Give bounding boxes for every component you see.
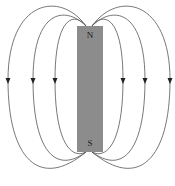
arrow-down-icon	[121, 78, 126, 84]
north-pole-label: N	[87, 30, 94, 40]
arrow-down-icon	[6, 78, 11, 84]
arrow-down-icon	[31, 78, 36, 84]
arrow-down-icon	[143, 78, 148, 84]
field-line-left-outer	[8, 6, 86, 168]
magnetic-field-diagram: N S	[0, 0, 175, 186]
bar-magnet	[77, 26, 103, 152]
arrow-down-icon	[53, 78, 58, 84]
south-pole-label: S	[87, 138, 92, 148]
field-lines-right	[92, 6, 170, 168]
field-lines-left	[8, 6, 86, 168]
arrow-down-icon	[168, 78, 173, 84]
field-line-right-outer	[92, 6, 170, 168]
